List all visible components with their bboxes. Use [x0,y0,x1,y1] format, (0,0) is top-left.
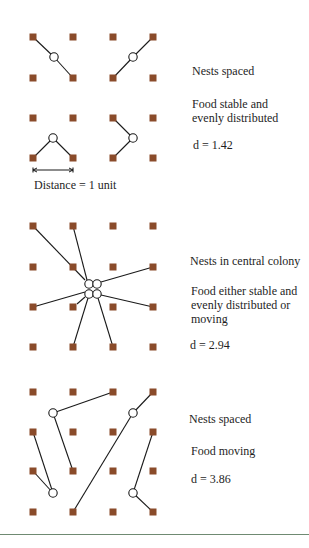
food-square [30,75,37,82]
food-square [30,468,37,475]
food-square [110,429,117,436]
scale-bar-label: Distance = 1 unit [34,178,116,193]
food-square [150,115,157,122]
nest-circle [49,134,57,142]
food-square [150,264,157,271]
food-square [110,34,117,41]
food-square [30,429,37,436]
food-square [30,223,37,230]
nest-circle [50,53,58,61]
caption-central-colony: d = 2.94 [190,338,230,353]
caption-central-colony: evenly distributed or [191,298,290,313]
caption-spaced-moving: d = 3.86 [191,472,231,487]
food-square [70,115,77,122]
food-square [110,304,117,311]
food-square [70,389,77,396]
food-square [30,304,37,311]
caption-central-colony: Nests in central colony [190,254,300,269]
food-square [70,509,77,516]
food-square [110,115,117,122]
food-square [110,389,117,396]
food-square [150,155,157,162]
foraging-line [33,292,85,307]
foraging-line [73,226,87,280]
food-square [70,155,77,162]
food-square [150,429,157,436]
nest-circle [129,489,137,497]
foraging-line [101,267,153,282]
food-square [150,344,157,351]
foraging-line [73,413,133,512]
food-square [30,34,37,41]
caption-central-colony: Food either stable and [191,284,297,299]
food-square [110,344,117,351]
food-square [30,264,37,271]
caption-spaced-stable: Food stable and [192,97,268,112]
nest-circle [85,280,93,288]
food-square [70,304,77,311]
nest-circle [49,409,57,417]
caption-spaced-moving: Nests spaced [189,412,251,427]
nest-circle [93,280,101,288]
nest-circle [129,53,137,61]
food-squares [30,34,157,516]
food-square [150,223,157,230]
food-square [110,468,117,475]
nest-circle [129,134,137,142]
scale-bar [33,168,73,173]
food-square [30,509,37,516]
food-square [70,223,77,230]
food-square [110,509,117,516]
food-square [150,389,157,396]
food-square [150,304,157,311]
food-square [30,155,37,162]
food-square [110,75,117,82]
food-square [30,389,37,396]
caption-central-colony: moving [191,312,228,327]
food-square [70,75,77,82]
foraging-line [53,413,73,471]
food-square [110,264,117,271]
food-square [110,155,117,162]
food-square [30,344,37,351]
food-square [150,509,157,516]
food-square [70,264,77,271]
foraging-line [33,432,53,493]
food-square [70,429,77,436]
food-square [150,34,157,41]
bottom-divider [0,534,309,535]
nest-circle [93,290,101,298]
nest-circle [49,489,57,497]
food-square [30,115,37,122]
food-square [150,468,157,475]
foraging-line [33,226,85,280]
caption-spaced-stable: evenly distributed [192,111,278,126]
foraging-line [101,295,153,307]
foraging-line [77,297,85,304]
foraging-line [53,392,113,413]
caption-spaced-stable: d = 1.42 [193,138,233,153]
food-square [70,34,77,41]
caption-spaced-moving: Food moving [191,444,255,459]
food-square [70,344,77,351]
food-square [150,75,157,82]
caption-spaced-stable: Nests spaced [192,64,254,79]
foraging-lines [33,37,153,512]
foraging-line [133,432,153,493]
food-square [110,223,117,230]
nest-circle [85,290,93,298]
ant-nest-spacing-diagram [0,0,309,548]
food-square [70,468,77,475]
nest-circle [129,409,137,417]
